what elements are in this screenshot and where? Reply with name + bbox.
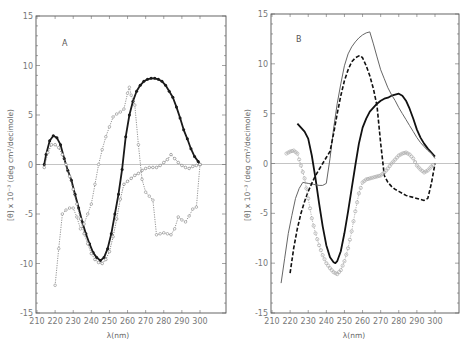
data-point [155,233,158,236]
data-point [94,183,97,186]
data-point [128,114,131,117]
data-point [157,78,160,81]
data-point [181,219,184,222]
data-point [137,172,140,175]
data-point [48,139,51,142]
data-point [57,146,60,149]
data-point [152,199,155,202]
data-point [97,261,100,264]
data-point [159,233,162,236]
y-tick-label: -10 [255,259,268,268]
panel-b-x-axis-label: λ(nm) [343,331,365,340]
data-point [144,191,147,194]
data-point [152,166,155,169]
data-point [128,86,131,89]
data-point [83,223,86,226]
data-point [90,203,93,206]
y-tick-label: -5 [260,209,268,218]
data-point [97,163,100,166]
data-point [113,213,116,216]
y-tick-label: 10 [258,60,268,69]
data-point [130,177,133,180]
data-point [50,143,53,146]
svg-text:[θ] x 10⁻³ (deg cm²/decimole): [θ] x 10⁻³ (deg cm²/decimole) [6,109,15,221]
panel-b-chart: B λ(nm) [θ] x 10⁻³ (deg cm²/decimole) -1… [243,10,459,340]
data-point [86,213,89,216]
x-tick-label: 220 [47,317,62,326]
data-point [126,180,129,183]
data-point [166,158,169,161]
data-point [119,198,122,201]
data-point [195,206,198,209]
x-tick-label: 270 [373,317,388,326]
data-point [191,165,194,168]
data-point [181,164,184,167]
data-point [150,77,153,80]
data-point [193,155,196,158]
data-point [54,284,57,287]
data-point [410,155,413,158]
y-tick-label: 0 [28,161,33,170]
data-point [124,135,127,138]
y-tick-label: 0 [263,160,268,169]
panel-b-y-axis-label: [θ] x 10⁻³ (deg cm²/decimole) [243,109,252,221]
panel-a-y-axis-units: x 10⁻³ (deg cm²/decimole) [6,109,15,208]
data-point [160,80,163,83]
data-point [108,250,111,253]
data-point [68,207,71,210]
series-dashed [290,56,435,273]
data-point [123,183,126,186]
data-point [72,188,75,191]
data-point [195,164,198,167]
data-point [164,84,167,87]
data-point [182,128,185,131]
data-point [76,216,79,219]
data-point [76,203,79,206]
data-point [101,148,104,151]
x-tick-label: 240 [319,317,334,326]
y-tick-label: 15 [23,12,33,21]
panel-a-y-axis-label: [θ] x 10⁻³ (deg cm²/decimole) [6,109,15,221]
data-point [47,151,50,154]
series-line [290,56,435,273]
data-point [175,106,178,109]
data-point [153,77,156,80]
y-tick-label: 5 [263,110,268,119]
data-point [170,153,173,156]
y-tick-label: 5 [28,111,33,120]
panel-a-label: A [62,39,68,48]
data-point [171,96,174,99]
data-point [162,232,165,235]
x-tick-label: 250 [337,317,352,326]
data-point [101,262,104,265]
data-point [119,111,122,114]
data-point [168,90,171,93]
x-tick-label: 220 [282,317,297,326]
data-point [79,218,82,221]
data-point [106,247,109,250]
data-point [135,90,138,93]
y-tick-label: -10 [20,260,33,269]
series-solid-filled-circles [43,77,202,262]
data-point [162,161,165,164]
data-point [142,80,145,83]
data-point [144,167,147,170]
data-point [63,157,66,160]
data-point [65,163,68,166]
svg-text:[θ] x 10⁻³ (deg cm²/decimole): [θ] x 10⁻³ (deg cm²/decimole) [243,109,252,221]
x-tick-label: 230 [301,317,316,326]
y-tick-label: -5 [25,210,33,219]
data-point [130,94,133,97]
data-point [54,143,57,146]
data-point [184,166,187,169]
y-tick-label: 15 [258,10,268,19]
data-point [191,208,194,211]
data-point [115,113,118,116]
data-point [134,174,137,177]
data-point [159,164,162,167]
data-point [79,228,82,231]
data-point [188,215,191,218]
data-point [55,136,58,139]
data-point [141,178,144,181]
data-point [189,147,192,150]
